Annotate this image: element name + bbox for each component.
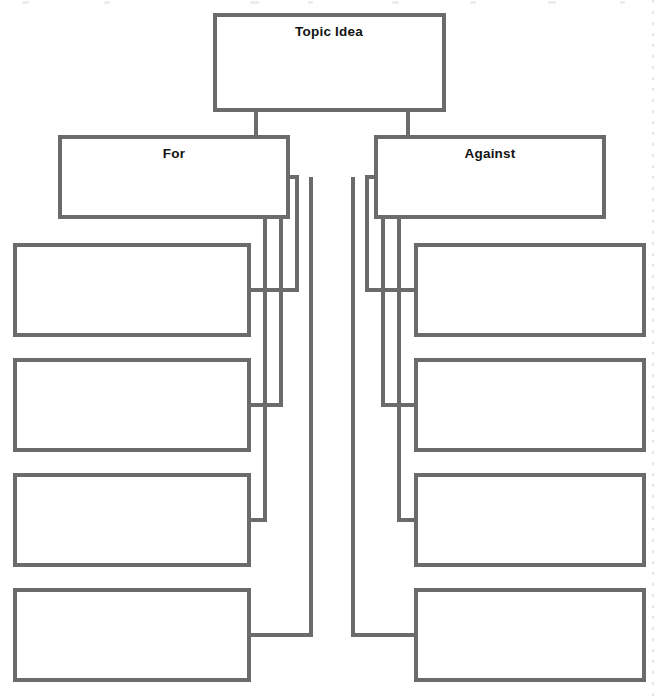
- node-against-reason-2[interactable]: [416, 360, 644, 450]
- for-reason-boxes: [15, 245, 249, 680]
- node-for-reason-4-box[interactable]: [15, 590, 249, 680]
- node-against-reason-4-box[interactable]: [416, 590, 644, 680]
- node-against-reason-1-box[interactable]: [416, 245, 644, 335]
- connector-for-to-reason-3: [249, 217, 265, 520]
- node-topic-idea[interactable]: Topic Idea: [215, 15, 444, 110]
- node-against-reason-3[interactable]: [416, 475, 644, 565]
- connector-against-to-reason-3: [399, 217, 416, 520]
- node-for-reason-1-box[interactable]: [15, 245, 249, 335]
- node-topic-idea-label: Topic Idea: [295, 24, 363, 39]
- node-for-reason-4[interactable]: [15, 590, 249, 680]
- node-against-reason-2-box[interactable]: [416, 360, 644, 450]
- node-for-reason-2[interactable]: [15, 360, 249, 450]
- node-for[interactable]: For: [60, 137, 288, 217]
- node-against[interactable]: Against: [376, 137, 604, 217]
- node-for-reason-3-box[interactable]: [15, 475, 249, 565]
- node-for-label: For: [163, 146, 186, 161]
- node-for-reason-2-box[interactable]: [15, 360, 249, 450]
- node-for-reason-1[interactable]: [15, 245, 249, 335]
- node-against-reason-3-box[interactable]: [416, 475, 644, 565]
- connector-against-to-reason-2: [376, 205, 416, 405]
- node-against-label: Against: [465, 146, 516, 161]
- diagram-svg: Topic Idea For Against: [0, 0, 660, 696]
- node-for-reason-3[interactable]: [15, 475, 249, 565]
- node-against-reason-1[interactable]: [416, 245, 644, 335]
- against-reason-boxes: [416, 245, 644, 680]
- graphic-organizer-canvas: Topic Idea For Against: [0, 0, 660, 696]
- node-against-reason-4[interactable]: [416, 590, 644, 680]
- connector-for-to-reason-2: [249, 205, 288, 405]
